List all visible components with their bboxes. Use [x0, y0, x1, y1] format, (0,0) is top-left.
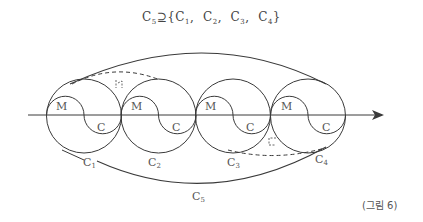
circles-diagram: M C M C M C M C C1 C2 C3 C4 C5: [0, 0, 423, 222]
c1-name: C1: [83, 156, 96, 170]
c4-c-label: C: [322, 121, 330, 134]
circle-c4: [271, 79, 346, 153]
c4-m-label: M: [281, 100, 292, 113]
c1-c-label: C: [97, 121, 105, 134]
c3-c-label: C: [246, 121, 254, 134]
figure-caption: (그림 6): [362, 197, 397, 212]
c1-m-label: M: [56, 100, 67, 113]
c3-m-label: M: [205, 100, 216, 113]
c4-name: C4: [315, 153, 328, 167]
c2-c-label: C: [172, 121, 180, 134]
outer-bottom-arc: [97, 147, 326, 183]
top-dashed-mark-icon: [116, 80, 122, 88]
bottom-dashed-mark-icon: [269, 138, 276, 145]
circle-c3: [196, 79, 271, 153]
circle-c1: [47, 79, 122, 153]
c2-m-label: M: [131, 100, 142, 113]
outer-top-arc: [70, 53, 326, 84]
c5-name: C5: [192, 190, 205, 204]
c3-name: C3: [227, 156, 240, 170]
c2-name: C2: [148, 156, 161, 170]
dashed-top-arc: [72, 72, 160, 84]
circle-c2: [121, 79, 196, 153]
